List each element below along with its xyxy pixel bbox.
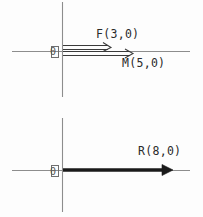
vector-R-arrowhead	[162, 165, 173, 176]
vector-M-label: M(5,0)	[122, 56, 165, 70]
upper-origin-label: 0	[50, 46, 56, 57]
lower-origin-label: 0	[50, 166, 56, 177]
vector-diagram-canvas: F(3,0) M(5,0) R(8,0) 0 0	[0, 0, 203, 217]
upper-diagram-group	[12, 2, 190, 97]
vector-F	[63, 43, 111, 52]
vector-F-label: F(3,0)	[96, 27, 139, 41]
vector-R-label: R(8,0)	[138, 144, 181, 158]
vector-R	[63, 165, 173, 176]
vector-F-arrowhead	[103, 43, 111, 52]
lower-diagram-group	[12, 118, 190, 212]
